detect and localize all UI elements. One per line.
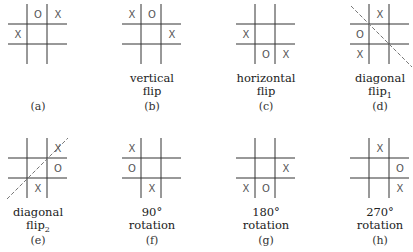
o-mark: O: [262, 183, 270, 194]
x-mark: X: [243, 183, 250, 194]
o-mark: O: [262, 49, 270, 60]
panel-c: XOXhorizontalflip(c): [232, 4, 332, 124]
x-mark: X: [149, 183, 156, 194]
x-mark: X: [377, 143, 384, 154]
tic-tac-toe-grid: OXX: [4, 4, 72, 66]
panel-h: XOX270°rotation(h): [346, 138, 413, 252]
panel-caption: 180°rotation: [216, 206, 316, 232]
x-mark: X: [283, 49, 290, 60]
o-mark: O: [54, 163, 62, 174]
panel-label: (g): [216, 234, 316, 247]
tic-tac-toe-grid: XOX: [118, 4, 186, 66]
panel-label: (h): [330, 234, 413, 247]
o-mark: O: [396, 163, 404, 174]
panel-label: (e): [0, 234, 88, 247]
panel-label: (c): [216, 100, 316, 113]
o-mark: O: [356, 29, 364, 40]
panel-caption: 90°rotation: [102, 206, 202, 232]
x-mark: X: [377, 9, 384, 20]
x-mark: X: [129, 143, 136, 154]
panel-label: (f): [102, 234, 202, 247]
x-mark: X: [55, 143, 62, 154]
tic-tac-toe-grid: XOX: [232, 4, 300, 66]
tic-tac-toe-grid: XXO: [232, 138, 300, 200]
x-mark: X: [397, 183, 404, 194]
x-mark: X: [243, 29, 250, 40]
panel-b: XOXverticalflip(b): [118, 4, 218, 124]
x-mark: X: [35, 183, 42, 194]
panel-caption: horizontalflip: [216, 72, 316, 98]
panel-d: XOXdiagonalflip1(d): [346, 4, 413, 124]
panel-label: (a): [0, 100, 88, 113]
panel-label: (b): [102, 100, 202, 113]
x-mark: X: [283, 163, 290, 174]
x-mark: X: [169, 29, 176, 40]
panel-caption: diagonalflip2: [0, 206, 88, 236]
panel-caption: diagonalflip1: [330, 72, 413, 102]
panel-f: XOX90°rotation(f): [118, 138, 218, 252]
panel-caption: verticalflip: [102, 72, 202, 98]
panel-caption: 270°rotation: [330, 206, 413, 232]
x-mark: X: [129, 9, 136, 20]
o-mark: O: [128, 163, 136, 174]
tic-tac-toe-grid: XOX: [118, 138, 186, 200]
panel-e: XOXdiagonalflip2(e): [4, 138, 104, 252]
panel-label: (d): [330, 100, 413, 113]
tic-tac-toe-grid: XOX: [4, 138, 72, 200]
x-mark: X: [55, 9, 62, 20]
tic-tac-toe-grid: XOX: [346, 138, 413, 200]
o-mark: O: [34, 9, 42, 20]
panel-a: OXX(a): [4, 4, 104, 124]
panel-g: XXO180°rotation(g): [232, 138, 332, 252]
x-mark: X: [15, 29, 22, 40]
o-mark: O: [148, 9, 156, 20]
x-mark: X: [357, 49, 364, 60]
tic-tac-toe-grid: XOX: [346, 4, 413, 66]
